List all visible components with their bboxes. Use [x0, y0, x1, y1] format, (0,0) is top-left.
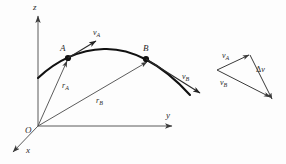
- ra-subscript: A: [65, 85, 69, 91]
- position-vector-rb-label: rB: [96, 97, 103, 106]
- position-vector-ra: [38, 61, 67, 126]
- position-vector-rb: [38, 62, 147, 126]
- velocity-vector-va-label: vA: [93, 29, 100, 38]
- origin-label: O: [25, 126, 32, 135]
- x-axis-label: x: [26, 146, 30, 155]
- velocity-vector-vb: [146, 59, 200, 93]
- rb-subscript: B: [99, 100, 103, 106]
- va-subscript: A: [97, 32, 101, 38]
- triangle-vb-label: vB: [220, 79, 227, 88]
- delta-v-symbol: v: [261, 65, 265, 74]
- velocity-vector-vb-label: vB: [182, 73, 189, 82]
- z-axis-label: z: [33, 3, 37, 12]
- triangle-va-subscript: A: [226, 55, 230, 61]
- point-a-label: A: [60, 44, 66, 53]
- position-vector-ra-label: rA: [62, 82, 69, 91]
- triangle-delta-v-label: Δv: [256, 66, 265, 74]
- physics-diagram-figure: z y x O A B rA rB vA vB vA vB Δv: [0, 0, 286, 164]
- triangle-va-label: vA: [222, 52, 229, 61]
- y-axis-label: y: [166, 111, 170, 120]
- triangle-vb-subscript: B: [224, 82, 228, 88]
- point-b-label: B: [143, 44, 149, 53]
- vb-subscript: B: [186, 76, 190, 82]
- diagram-canvas: [0, 0, 286, 164]
- vector-triangle: [217, 55, 272, 99]
